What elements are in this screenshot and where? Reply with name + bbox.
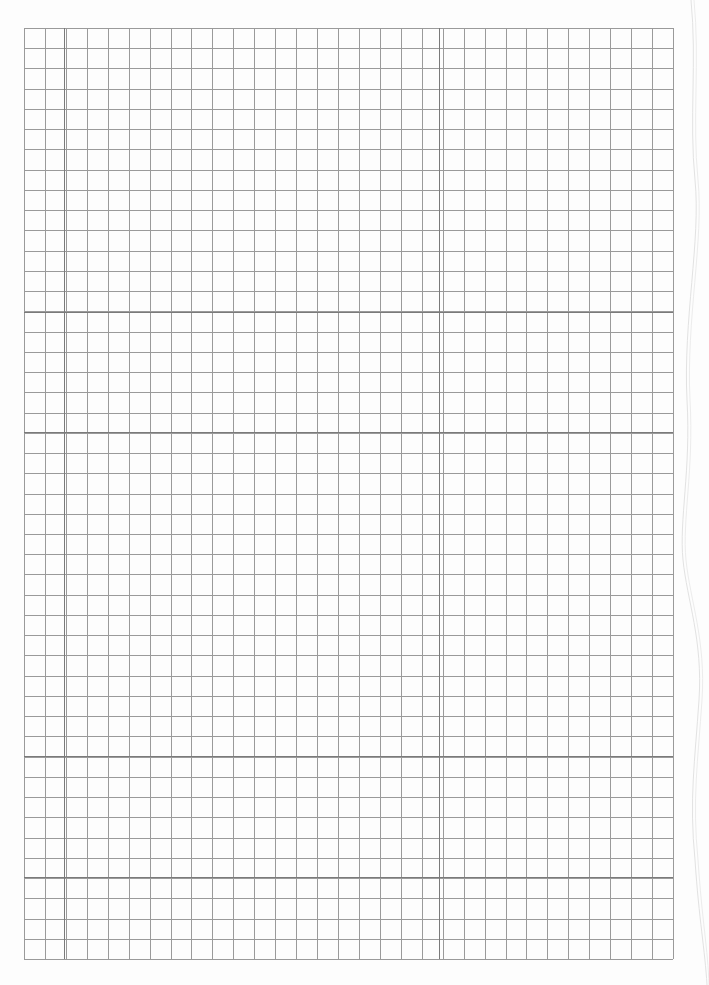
torn-paper-edge [669, 0, 709, 985]
graph-paper-grid [0, 0, 709, 985]
graph-paper-sheet [0, 0, 709, 985]
